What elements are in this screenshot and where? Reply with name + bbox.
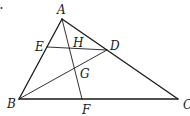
label-E: E bbox=[34, 40, 44, 54]
label-A: A bbox=[56, 3, 66, 17]
label-G: G bbox=[80, 67, 90, 81]
segments bbox=[19, 19, 178, 99]
stray-mark bbox=[1, 7, 3, 9]
geometry-diagram: A B C D E F G H bbox=[0, 0, 190, 116]
label-F: F bbox=[81, 103, 91, 116]
label-C: C bbox=[183, 98, 190, 112]
label-D: D bbox=[109, 39, 120, 53]
label-B: B bbox=[6, 97, 16, 111]
label-H: H bbox=[72, 36, 84, 50]
